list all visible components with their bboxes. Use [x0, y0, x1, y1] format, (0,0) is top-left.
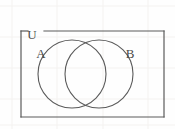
venn-diagram-figure: U A B	[0, 0, 175, 129]
set-label-b: B	[126, 46, 135, 61]
universe-rectangle	[21, 31, 164, 117]
set-circle-b	[65, 40, 133, 108]
venn-diagram-drawing: U A B	[0, 0, 175, 129]
set-circle-a	[38, 40, 106, 108]
set-label-a: A	[36, 46, 46, 61]
set-circles	[38, 40, 133, 108]
universe-label: U	[27, 27, 37, 42]
